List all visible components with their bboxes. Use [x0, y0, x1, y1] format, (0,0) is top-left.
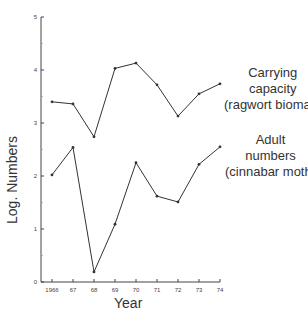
- x-tick-label: 73: [196, 287, 203, 293]
- data-lines: [51, 62, 222, 274]
- series-label-carrying-capacity: Carrying capacity (ragwort biomas): [224, 65, 308, 113]
- data-point: [219, 145, 222, 148]
- x-tick-label: 67: [70, 287, 77, 293]
- data-point: [198, 92, 201, 95]
- data-point: [93, 271, 96, 274]
- y-tick-label: 5: [34, 14, 38, 20]
- y-tick-label: 2: [34, 173, 38, 179]
- series-line-0: [52, 63, 220, 137]
- y-axis-title: Log. Numbers: [2, 120, 22, 240]
- axes: 01234519666768697071727374: [34, 14, 224, 293]
- x-tick-label: 1966: [45, 287, 59, 293]
- data-point: [135, 62, 138, 65]
- data-point: [177, 201, 180, 204]
- data-point: [198, 163, 201, 166]
- x-tick-label: 72: [175, 287, 182, 293]
- x-tick-label: 71: [154, 287, 161, 293]
- data-point: [177, 115, 180, 118]
- series-line-1: [52, 147, 220, 272]
- data-point: [51, 100, 54, 103]
- data-point: [51, 174, 54, 177]
- data-point: [114, 67, 117, 70]
- data-point: [135, 161, 138, 164]
- data-point: [219, 82, 222, 85]
- y-tick-label: 0: [34, 279, 38, 285]
- y-tick-label: 4: [34, 67, 38, 73]
- data-point: [93, 135, 96, 138]
- x-tick-label: 74: [217, 287, 224, 293]
- x-tick-label: 70: [133, 287, 140, 293]
- y-tick-label: 1: [34, 226, 38, 232]
- data-point: [114, 223, 117, 226]
- data-point: [72, 146, 75, 149]
- x-tick-label: 68: [91, 287, 98, 293]
- y-tick-label: 3: [34, 120, 38, 126]
- data-point: [72, 103, 75, 106]
- series-label-adult-numbers: Adult numbers (cinnabar moth): [225, 132, 308, 180]
- x-axis-title: Year: [114, 295, 142, 311]
- x-tick-label: 69: [112, 287, 119, 293]
- data-point: [156, 195, 159, 198]
- data-point: [156, 83, 159, 86]
